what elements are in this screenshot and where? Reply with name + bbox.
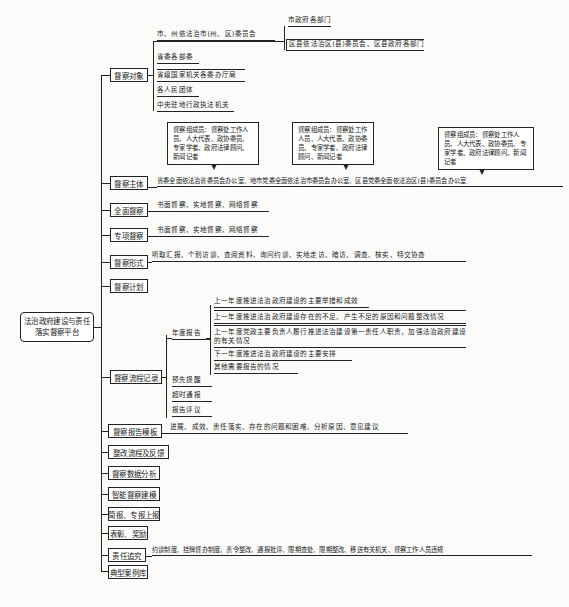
node-label: 督察计划 (114, 281, 143, 292)
node-label: 督察形式 (114, 257, 143, 268)
process-item: 报告评议 (172, 406, 212, 417)
node-special[interactable]: 专项督察 (110, 228, 148, 242)
root-label: 法治政府建设与责任落实督察平台 (23, 316, 91, 338)
node-cases[interactable]: 典型案例库 (108, 565, 148, 579)
node-template[interactable]: 督察报告模板 (108, 424, 162, 438)
connector (101, 183, 110, 184)
node-label: 督察报告模板 (113, 426, 157, 437)
node-brief[interactable]: 简报、专报上报 (108, 507, 160, 521)
connector (206, 338, 210, 339)
callout-members-2: 督察组成员：督察处工作人员、人大代表、政协委员、专家学者、政府法律顾问、新闻记者 (292, 122, 374, 165)
connector (148, 211, 157, 212)
connector (101, 210, 110, 211)
connector (101, 262, 110, 263)
connector (153, 41, 275, 42)
annual-report: 年度报告 (172, 329, 210, 340)
connector (148, 187, 157, 188)
connector (148, 262, 152, 263)
target-item: 中央驻地行政执法机关 (157, 101, 234, 112)
annual-item: 其他需要报告的情况 (214, 360, 298, 374)
annual-item: 上一年度推进法治政府建设存在的不足、产生不足的原因和问题整改情况 (214, 310, 466, 324)
connector (166, 335, 167, 418)
connector (101, 235, 110, 236)
node-label: 智能督察建模 (112, 489, 156, 500)
annual-item: 下一年度推进法治政府建设的主要安排 (214, 347, 352, 361)
target-item: 省级国家机关各委办厅局 (157, 69, 245, 82)
root-node: 法治政府建设与责任落实督察平台 (20, 312, 94, 342)
node-label: 督察流程记录 (114, 372, 158, 383)
target-item: 各人民团体 (157, 86, 199, 97)
connector (210, 305, 211, 375)
target-subitem: 区县依法治区(县)委员会、区县政府各部门 (286, 39, 424, 51)
template-text: 进展、成效、责任落实、存在的问题和困难、分析原因、意见建议 (170, 423, 408, 434)
target-item: 省委各部委 (157, 53, 199, 64)
node-form[interactable]: 督察形式 (110, 255, 148, 269)
annual-item: 上一年度推进法治政府建设的主要举措和成效 (214, 297, 369, 308)
connector (166, 338, 172, 339)
special-text: 书面督察、实地督察、网络督察 (157, 226, 269, 237)
node-label: 整改流程及反馈 (113, 447, 164, 458)
node-label: 表彰、奖励 (110, 528, 147, 539)
node-rectify[interactable]: 整改流程及反馈 (108, 445, 169, 459)
process-item: 超时通报 (172, 391, 212, 402)
connector (153, 41, 154, 111)
callout-members-1: 督察组成员：督察处工作人员、人大代表、政协委员、专家学者、政府法律顾问、新闻记者 (167, 122, 259, 165)
node-label: 全面督察 (114, 205, 143, 216)
connector (101, 286, 110, 287)
trunk-line (101, 75, 102, 571)
callout-members-3: 督察组成员：督察处工作人员、人大代表、政协委员、专家学者、政府法律顾问、新闻记者 (438, 127, 534, 170)
connector (275, 41, 284, 42)
node-label: 责任追究 (112, 550, 141, 561)
node-targets[interactable]: 督察对象 (110, 68, 148, 82)
connector (146, 556, 152, 557)
node-reward[interactable]: 表彰、奖励 (108, 526, 148, 540)
node-smart[interactable]: 智能督察建模 (108, 487, 160, 501)
node-accountability[interactable]: 责任追究 (108, 548, 146, 562)
node-plan[interactable]: 督察计划 (110, 279, 148, 293)
connector (101, 75, 110, 76)
process-item: 预先提醒 (172, 376, 212, 387)
annual-item: 上一年度党政主要负责人履行推进法治建设第一责任人职责，加强法治政府建设的有关情况 (214, 325, 466, 348)
node-label: 督察主体 (114, 178, 143, 189)
node-full[interactable]: 全面督察 (110, 203, 148, 217)
connector (284, 26, 285, 50)
node-process[interactable]: 督察流程记录 (110, 370, 162, 384)
connector (94, 327, 101, 328)
subject-text: 省委全面依法治省委员会办公室、地市党委全面依法治市委员会办公室、区县党委全面依法… (157, 176, 563, 187)
node-subject[interactable]: 督察主体 (110, 176, 148, 190)
node-label: 典型案例库 (110, 567, 147, 578)
target-subitem: 市政府各部门 (288, 16, 331, 27)
node-label: 专项督察 (114, 230, 143, 241)
connector (101, 377, 110, 378)
node-label: 督察对象 (114, 70, 143, 81)
accountability-text: 约谈制度、挂牌督办制度、责令整改、通报批评、限期查处、限期整改、移送有关机关、督… (152, 545, 532, 556)
connector (148, 236, 157, 237)
full-text: 书面督察、实地督察、网络督察 (157, 201, 269, 212)
node-analysis[interactable]: 督察数据分析 (108, 466, 160, 480)
node-label: 督察数据分析 (112, 468, 156, 479)
node-label: 简报、专报上报 (108, 509, 159, 520)
connector (162, 433, 170, 434)
target-item: 市、州依法治市(州、区)委员会 (157, 30, 275, 41)
form-text: 听取汇报、个别访谈、查阅资料、询问约谈、实地走访、暗访、调查、核实、特交协查 (152, 251, 466, 262)
